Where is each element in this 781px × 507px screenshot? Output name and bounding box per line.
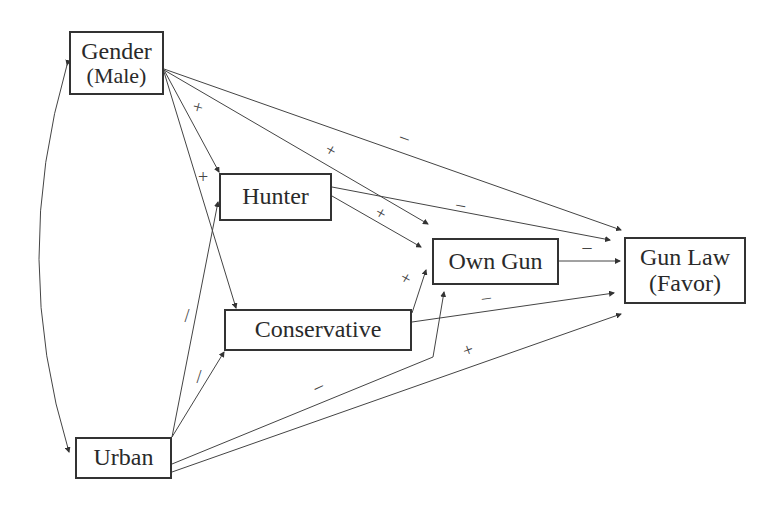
edge-gender-urban	[39, 65, 69, 452]
node-conservative: Conservative	[224, 309, 412, 351]
node-hunter-label: Hunter	[242, 184, 309, 209]
node-hunter: Hunter	[219, 173, 332, 221]
sign-urban-conservative: /	[196, 368, 201, 386]
node-gun-law-sublabel: (Favor)	[649, 271, 721, 296]
edge-conservative-gunlaw	[412, 293, 614, 322]
node-conservative-label: Conservative	[255, 317, 382, 342]
node-own-gun: Own Gun	[432, 238, 559, 285]
edge-urban-conservative	[172, 352, 224, 437]
sign-urban-hunter: /	[184, 307, 189, 325]
node-own-gun-label: Own Gun	[449, 249, 543, 274]
node-gender-male: Gender (Male)	[69, 31, 164, 95]
node-urban: Urban	[75, 437, 172, 479]
edge-conservative-owngun	[412, 270, 426, 313]
node-urban-label: Urban	[94, 445, 154, 470]
node-gun-law-label: Gun Law	[640, 245, 730, 270]
edge-urban-hunter	[172, 202, 218, 437]
node-gun-law-favor: Gun Law (Favor)	[624, 237, 746, 304]
sign-gender-conservative: +	[198, 168, 208, 186]
sign-owngun-gunlaw: –	[583, 238, 592, 256]
node-gender-label: Gender	[81, 39, 152, 64]
node-gender-sublabel: (Male)	[87, 64, 147, 87]
